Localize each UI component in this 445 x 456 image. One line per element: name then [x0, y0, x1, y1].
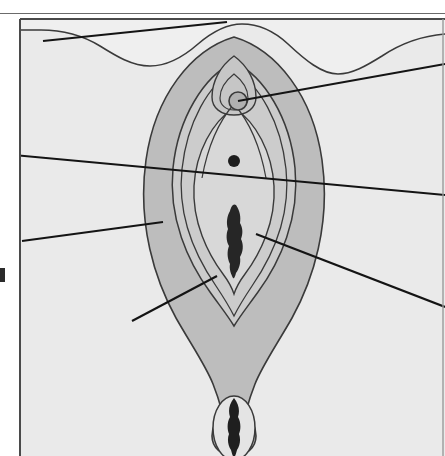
illustration-body: [14, 20, 445, 456]
anatomical-illustration: [0, 0, 445, 456]
figure-panel: [0, 0, 445, 456]
left-edge-mark: [0, 268, 5, 282]
external-urethral-orifice: [228, 155, 240, 167]
